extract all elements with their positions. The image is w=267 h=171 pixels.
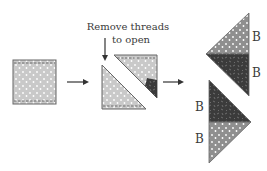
arrow-right-icon: [163, 79, 184, 85]
label-b-bottom-upper: B: [195, 100, 204, 114]
bottom-triangle-unit: [209, 80, 251, 163]
label-b-bottom-lower: B: [195, 132, 204, 146]
fabric-square: [13, 60, 56, 104]
annotation-line-1: Remove threads: [87, 21, 169, 32]
label-b-top-lower: B: [252, 66, 261, 80]
arrow-right-icon: [67, 79, 89, 85]
label-b-top-upper: B: [252, 30, 261, 44]
diagram-canvas: Remove threads to open B B B B: [0, 0, 267, 171]
annotation-line-2: to open: [112, 34, 151, 45]
arrow-down-icon: [102, 38, 108, 61]
